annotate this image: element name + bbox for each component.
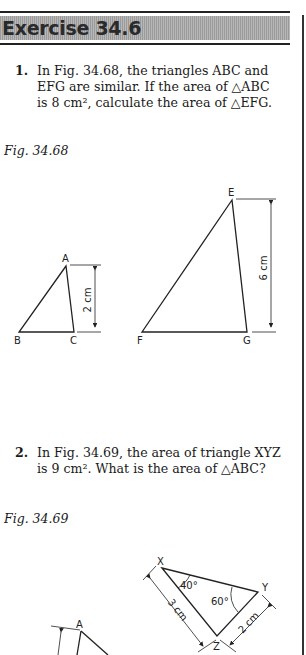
- svg-text:40°: 40°: [180, 580, 198, 591]
- svg-text:3 cm: 3 cm: [166, 597, 190, 623]
- svg-text:60°: 60°: [211, 596, 229, 607]
- svg-text:A: A: [62, 253, 69, 264]
- svg-text:6 cm: 6 cm: [258, 256, 269, 281]
- svg-text:2 cm: 2 cm: [236, 610, 261, 635]
- triangle-xyz: [143, 566, 276, 652]
- triangle-abc-2: [51, 626, 108, 655]
- svg-text:G: G: [243, 335, 251, 346]
- svg-text:Y: Y: [261, 582, 269, 593]
- svg-text:E: E: [228, 187, 234, 198]
- svg-text:A: A: [76, 619, 83, 630]
- svg-text:Z: Z: [213, 641, 220, 652]
- svg-text:F: F: [137, 335, 143, 346]
- svg-text:C: C: [70, 335, 77, 346]
- svg-text:2 cm: 2 cm: [82, 288, 93, 313]
- svg-text:B: B: [14, 335, 21, 346]
- figures-canvas: A B C 2 cm E F G 6 cm X Y Z 40° 60° 3 cm…: [0, 0, 306, 655]
- triangle-efg: [142, 199, 276, 332]
- svg-text:X: X: [157, 556, 164, 567]
